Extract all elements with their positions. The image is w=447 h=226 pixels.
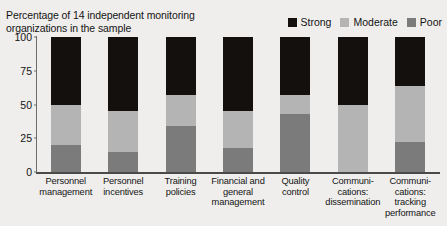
bar-segment-poor <box>280 114 310 172</box>
y-tick-label: 75 <box>20 65 32 77</box>
bar-slot <box>152 37 209 172</box>
y-tick-label: 0 <box>26 166 32 178</box>
x-axis-label: Communi-cations:dissemination <box>324 176 381 218</box>
chart-legend: Strong Moderate Poor <box>288 16 442 28</box>
legend-swatch-moderate <box>340 18 349 27</box>
bar-segment-poor <box>166 126 196 172</box>
bar-segment-poor <box>51 145 81 172</box>
y-tick-label: 50 <box>20 99 32 111</box>
legend-item-moderate: Moderate <box>340 16 397 28</box>
bar-slot <box>382 37 439 172</box>
bar-group <box>37 37 439 172</box>
x-axis-label: Qualitycontrol <box>267 176 324 218</box>
stacked-bar[interactable] <box>223 37 253 172</box>
bar-segment-moderate <box>51 105 81 146</box>
stacked-bar[interactable] <box>51 37 81 172</box>
legend-item-poor: Poor <box>407 16 442 28</box>
x-axis-label: Communi-cations:trackingperformance <box>382 176 439 218</box>
bar-segment-moderate <box>223 111 253 147</box>
y-tick-label: 25 <box>20 132 32 144</box>
stacked-bar-chart: Percentage of 14 independent monitoring … <box>0 0 447 226</box>
bar-segment-poor <box>108 152 138 172</box>
x-axis-line <box>36 172 440 174</box>
bar-segment-strong <box>338 37 368 105</box>
bar-slot <box>94 37 151 172</box>
bar-segment-poor <box>223 148 253 172</box>
bar-slot <box>209 37 266 172</box>
bar-segment-strong <box>280 37 310 95</box>
legend-label-poor: Poor <box>420 16 442 28</box>
bar-segment-moderate <box>395 86 425 143</box>
stacked-bar[interactable] <box>108 37 138 172</box>
x-axis-labels: PersonnelmanagementPersonnelincentivesTr… <box>37 176 439 218</box>
bar-segment-poor <box>395 142 425 172</box>
stacked-bar[interactable] <box>395 37 425 172</box>
bar-segment-moderate <box>280 95 310 114</box>
bar-slot <box>267 37 324 172</box>
bar-segment-moderate <box>166 95 196 126</box>
legend-item-strong: Strong <box>288 16 332 28</box>
legend-swatch-strong <box>288 18 297 27</box>
y-tick-label: 100 <box>14 31 32 43</box>
x-axis-label: Trainingpolicies <box>152 176 209 218</box>
bar-segment-moderate <box>108 111 138 152</box>
stacked-bar[interactable] <box>166 37 196 172</box>
x-axis-label: Personnelmanagement <box>37 176 94 218</box>
stacked-bar[interactable] <box>280 37 310 172</box>
bar-slot <box>324 37 381 172</box>
bar-segment-moderate <box>338 105 368 173</box>
chart-subtitle: Percentage of 14 independent monitoring … <box>6 9 256 34</box>
bar-slot <box>37 37 94 172</box>
x-axis-label: Personnelincentives <box>94 176 151 218</box>
bar-segment-strong <box>223 37 253 111</box>
x-axis-label: Financial andgeneralmanagement <box>209 176 266 218</box>
plot-area: 0255075100 <box>37 37 439 172</box>
stacked-bar[interactable] <box>338 37 368 172</box>
bar-segment-strong <box>51 37 81 105</box>
bar-segment-strong <box>395 37 425 86</box>
legend-label-moderate: Moderate <box>353 16 397 28</box>
legend-swatch-poor <box>407 18 416 27</box>
bar-segment-strong <box>108 37 138 111</box>
bar-segment-strong <box>166 37 196 95</box>
legend-label-strong: Strong <box>301 16 332 28</box>
